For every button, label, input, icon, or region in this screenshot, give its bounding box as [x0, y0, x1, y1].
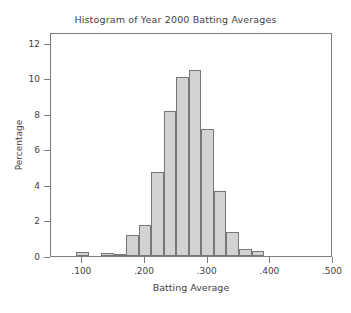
- histogram-bar: [139, 225, 152, 256]
- y-tick-mark: [44, 257, 50, 258]
- x-tick-mark: [144, 257, 145, 263]
- x-tick-mark: [332, 257, 333, 263]
- histogram-bar: [239, 249, 252, 256]
- y-tick-label: 2: [18, 216, 40, 226]
- x-axis-label: Batting Average: [50, 282, 332, 293]
- x-tick-label: .500: [312, 266, 351, 276]
- y-tick-label: 4: [18, 181, 40, 191]
- x-tick-mark: [81, 257, 82, 263]
- histogram-bar: [201, 129, 214, 256]
- histogram-bar: [151, 172, 164, 256]
- histogram-bar: [189, 70, 202, 256]
- y-tick-label: 8: [18, 110, 40, 120]
- x-tick-label: .400: [249, 266, 289, 276]
- histogram-bar: [226, 232, 239, 256]
- y-tick-label: 6: [18, 145, 40, 155]
- y-tick-label: 10: [18, 74, 40, 84]
- histogram-bars: [51, 34, 331, 256]
- x-tick-label: .200: [124, 266, 164, 276]
- histogram-bar: [214, 191, 227, 256]
- histogram-bar: [76, 252, 89, 256]
- x-tick-mark: [207, 257, 208, 263]
- histogram-bar: [176, 77, 189, 256]
- plot-area: [50, 33, 332, 257]
- histogram-bar: [114, 254, 127, 256]
- histogram-bar: [164, 111, 177, 256]
- histogram-bar: [101, 253, 114, 256]
- histogram-figure: Histogram of Year 2000 Batting Averages …: [0, 0, 351, 313]
- x-tick-mark: [269, 257, 270, 263]
- histogram-bar: [126, 235, 139, 256]
- x-tick-label: .300: [187, 266, 227, 276]
- histogram-bar: [252, 251, 265, 256]
- y-tick-label: 12: [18, 39, 40, 49]
- chart-title: Histogram of Year 2000 Batting Averages: [0, 14, 351, 25]
- x-tick-label: .100: [61, 266, 101, 276]
- y-tick-label: 0: [18, 252, 40, 262]
